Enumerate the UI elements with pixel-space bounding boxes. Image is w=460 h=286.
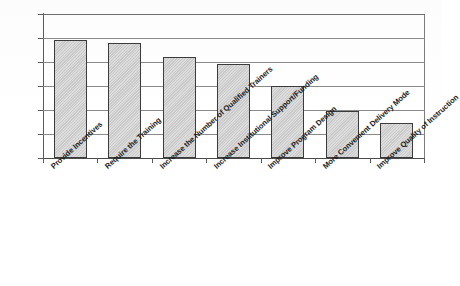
x-tick-mark-5 bbox=[315, 158, 316, 163]
x-tick-mark-4 bbox=[261, 158, 262, 163]
x-tick-mark-0 bbox=[43, 158, 44, 163]
gridline-50 bbox=[43, 38, 425, 39]
x-tick-mark-2 bbox=[152, 158, 153, 163]
gridline-60 bbox=[43, 14, 425, 15]
plot-area bbox=[43, 14, 425, 158]
x-tick-mark-end bbox=[424, 158, 425, 163]
gridline-0 bbox=[43, 158, 425, 159]
x-tick-mark-1 bbox=[97, 158, 98, 163]
x-tick-mark-6 bbox=[370, 158, 371, 163]
x-tick-mark-3 bbox=[206, 158, 207, 163]
gridline-40 bbox=[43, 62, 425, 63]
